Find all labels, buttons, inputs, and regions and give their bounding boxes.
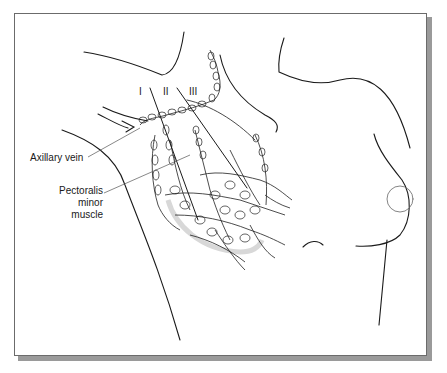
axillary-vein-upper xyxy=(103,107,148,121)
level-I-label: I xyxy=(139,86,142,97)
level-III-label: III xyxy=(189,86,197,97)
pectoralis-shade xyxy=(168,200,262,252)
axillary-vein-lower xyxy=(98,114,128,128)
axillary-vein-label: Axillary vein xyxy=(30,152,83,164)
neck-right-contour xyxy=(279,38,410,148)
level-II-label: II xyxy=(163,86,169,97)
torso-right-line xyxy=(379,240,387,325)
pectoralis-minor-label: Pectoralis minor muscle xyxy=(48,185,103,221)
fold-curve xyxy=(303,241,323,247)
neck-left-contour xyxy=(84,32,184,75)
axillary-vein-leader xyxy=(88,128,140,157)
lymph-nodes xyxy=(139,52,268,244)
breast-contour xyxy=(356,134,409,246)
pectoralis-label-line2: minor muscle xyxy=(48,197,103,221)
pectoralis-label-line1: Pectoralis xyxy=(48,185,103,197)
chest-wall-curve-1 xyxy=(220,55,277,132)
